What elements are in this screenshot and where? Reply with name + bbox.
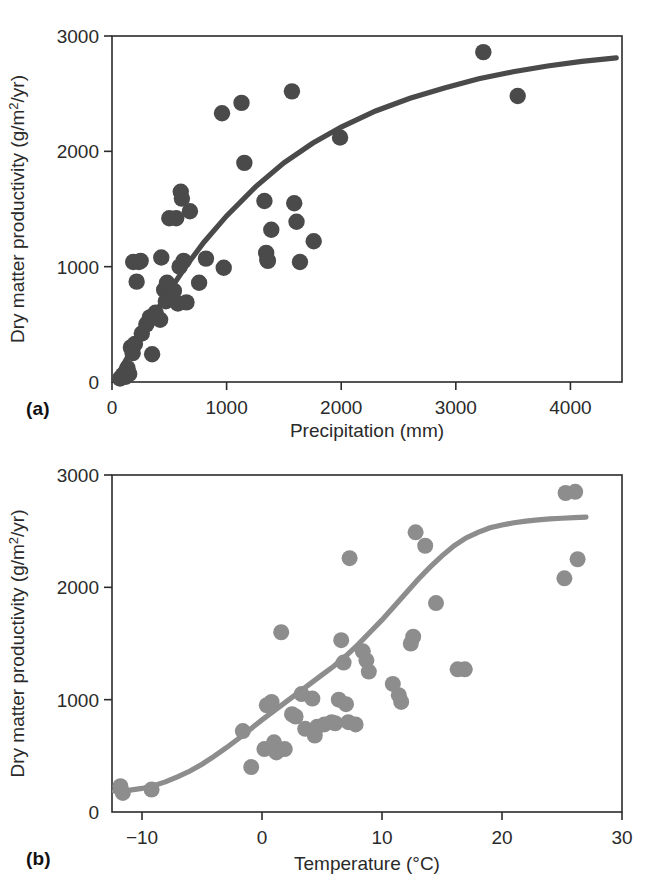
data-point [260, 253, 276, 269]
x-axis-tick-label: 2000 [320, 397, 362, 418]
data-points [112, 484, 585, 801]
data-point [336, 655, 352, 671]
data-point [144, 782, 160, 798]
data-point [332, 129, 348, 145]
x-axis-tick-label: 4000 [549, 397, 591, 418]
y-axis-tick-label: 0 [88, 802, 99, 823]
y-axis-title: Dry matter productivity (g/m2/yr) [6, 75, 28, 343]
plot-frame [112, 475, 622, 812]
y-axis-tick-label: 0 [88, 372, 99, 393]
scatter-plot-b: −1001020300100020003000Temperature (°C)D… [0, 440, 649, 885]
x-axis-tick-label: 3000 [435, 397, 477, 418]
scatter-plot-a: 010002000300040000100020003000Precipitat… [0, 0, 649, 445]
data-point [408, 524, 424, 540]
y-axis-tick-label: 3000 [57, 465, 99, 486]
y-axis-tick-label: 2000 [57, 577, 99, 598]
y-axis-tick-label: 1000 [57, 690, 99, 711]
data-point [178, 294, 194, 310]
data-point [191, 275, 207, 291]
panel-b-label: (b) [26, 848, 51, 870]
x-axis-tick-label: 30 [611, 827, 632, 848]
data-point [304, 691, 320, 707]
data-point [306, 233, 322, 249]
data-point [144, 346, 160, 362]
data-point [405, 629, 421, 645]
data-point [428, 595, 444, 611]
x-axis-tick-label: 0 [107, 397, 118, 418]
data-point [567, 484, 583, 500]
data-point [198, 250, 214, 266]
x-axis-title: Precipitation (mm) [290, 420, 444, 441]
x-axis-title: Temperature (°C) [294, 853, 440, 874]
x-axis-tick-label: 10 [371, 827, 392, 848]
data-point [128, 273, 144, 289]
data-point [457, 661, 473, 677]
data-point [263, 222, 279, 238]
data-point [153, 249, 169, 265]
data-point [333, 632, 349, 648]
data-point [361, 664, 377, 680]
data-point [273, 624, 289, 640]
panel-a-label: (a) [26, 398, 50, 420]
x-axis-tick-label: 20 [491, 827, 512, 848]
data-point [342, 550, 358, 566]
data-point [216, 260, 232, 276]
x-axis-tick-label: 0 [257, 827, 268, 848]
data-point [132, 253, 148, 269]
y-axis-tick-label: 2000 [57, 141, 99, 162]
data-point [115, 785, 131, 801]
data-point [152, 312, 168, 328]
data-point [284, 83, 300, 99]
data-point [570, 551, 586, 567]
data-point [121, 366, 137, 382]
data-point [243, 759, 259, 775]
data-point [214, 105, 230, 121]
data-point [417, 538, 433, 554]
data-point [182, 203, 198, 219]
data-point [286, 195, 302, 211]
data-point [288, 213, 304, 229]
data-point [235, 723, 251, 739]
data-point [338, 696, 354, 712]
x-axis-tick-label: 1000 [205, 397, 247, 418]
data-point [510, 88, 526, 104]
data-point [393, 694, 409, 710]
panel-b: −1001020300100020003000Temperature (°C)D… [0, 440, 649, 885]
data-point [475, 44, 491, 60]
x-axis-tick-label: −10 [126, 827, 158, 848]
data-point [277, 741, 293, 757]
data-point [348, 716, 364, 732]
data-point [233, 95, 249, 111]
data-point [256, 193, 272, 209]
y-axis-title: Dry matter productivity (g/m2/yr) [6, 510, 28, 778]
figure-container: 010002000300040000100020003000Precipitat… [0, 0, 649, 885]
data-point [292, 254, 308, 270]
data-point [236, 155, 252, 171]
data-point [175, 253, 191, 269]
data-point [264, 694, 280, 710]
data-point [556, 570, 572, 586]
y-axis-tick-label: 3000 [57, 26, 99, 47]
y-axis-tick-label: 1000 [57, 257, 99, 278]
data-points [112, 44, 526, 387]
panel-a: 010002000300040000100020003000Precipitat… [0, 0, 649, 445]
